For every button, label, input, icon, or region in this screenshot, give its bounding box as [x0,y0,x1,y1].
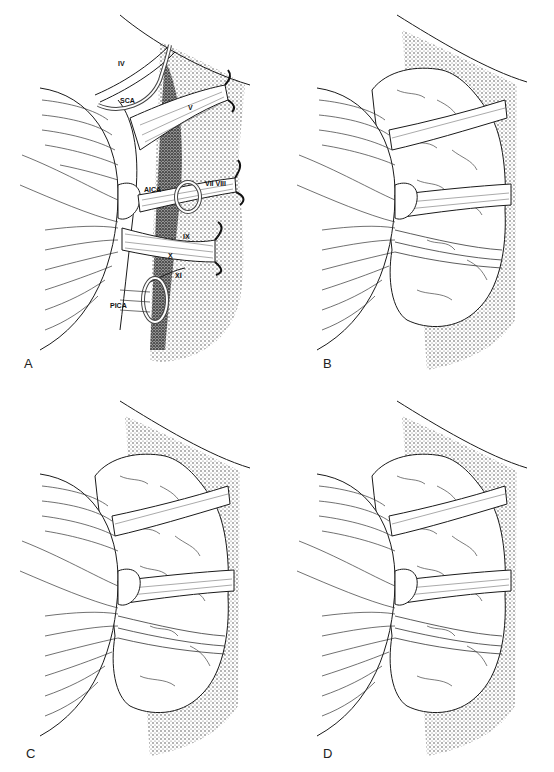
label-aica: AICA [144,186,161,193]
panel-b-illustration [277,0,554,386]
label-xi: XI [175,272,182,279]
label-iv: IV [118,60,125,67]
panel-d: D [277,386,554,772]
panel-label-b: B [323,356,332,371]
label-pica: PICA [110,302,127,309]
label-vii-viii: VII VIII [205,180,226,187]
panel-a-illustration [0,0,277,386]
label-sca: SCA [120,97,135,104]
label-v: V [188,104,193,111]
panel-label-c: C [26,746,35,761]
panel-a: IV SCA V AICA VII VIII IX X XI PICA A [0,0,277,386]
panel-d-illustration [277,386,554,772]
label-ix: IX [183,233,190,240]
label-x: X [168,252,173,259]
panel-b: B [277,0,554,386]
panel-c-illustration [0,386,277,772]
panel-c: C [0,386,277,772]
panel-label-a: A [24,356,33,371]
panel-label-d: D [323,746,332,761]
